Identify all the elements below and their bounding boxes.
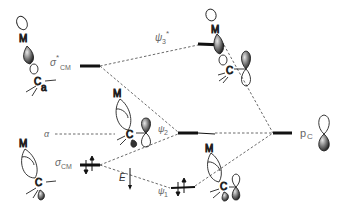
svg-text:C: C — [226, 65, 233, 76]
svg-text:*: * — [166, 29, 169, 38]
line-sigmastar-psi3 — [100, 45, 198, 66]
energy-axis: E — [119, 168, 132, 190]
svg-text:a: a — [41, 82, 47, 93]
svg-text:3: 3 — [162, 38, 166, 45]
orbital-sigma-cm: M C — [19, 138, 56, 200]
svg-text:C: C — [307, 132, 313, 141]
mo-diagram: E σ * CM α σ CM ψ 3 * ψ 2 ψ 1 p C M C — [0, 0, 342, 215]
svg-text:C: C — [35, 177, 42, 188]
level-psi2-tail — [198, 133, 215, 134]
orbital-psi1: M C — [205, 143, 240, 201]
orbital-sigma-star-cm: M C a — [15, 15, 56, 96]
svg-text:M: M — [19, 138, 27, 149]
arrow-down-icon — [128, 185, 132, 190]
svg-text:CM: CM — [60, 64, 71, 71]
label-alpha: α — [44, 129, 50, 139]
svg-text:2: 2 — [164, 129, 168, 136]
label-psi2: ψ 2 — [158, 124, 168, 136]
svg-text:1: 1 — [164, 191, 168, 198]
label-pc: p C — [300, 127, 313, 141]
line-sigmastar-psi2 — [100, 66, 178, 132]
label-psi1: ψ 1 — [158, 186, 168, 198]
orbital-psi3-star: M C — [204, 8, 250, 86]
energy-label: E — [119, 172, 126, 183]
label-sigma-star-cm: σ * CM — [50, 53, 71, 71]
label-psi3-star: ψ 3 * — [155, 29, 169, 45]
label-sigma-cm: σ CM — [55, 157, 72, 170]
svg-text:M: M — [19, 33, 27, 44]
line-sigmacm-psi1 — [100, 165, 170, 188]
svg-text:C: C — [220, 181, 227, 192]
level-psi1 — [171, 187, 195, 188]
svg-text:M: M — [205, 143, 213, 154]
svg-text:M: M — [113, 88, 121, 99]
energy-levels — [80, 44, 292, 188]
svg-text:C: C — [126, 129, 133, 140]
svg-text:CM: CM — [61, 163, 72, 170]
line-sigmacm-psi2 — [100, 134, 178, 165]
svg-text:p: p — [300, 127, 306, 139]
orbital-psi2: M C — [113, 88, 151, 147]
orbital-pc — [319, 115, 330, 151]
svg-text:*: * — [56, 53, 59, 62]
svg-text:M: M — [211, 24, 219, 35]
line-psi1-pc — [195, 133, 273, 186]
